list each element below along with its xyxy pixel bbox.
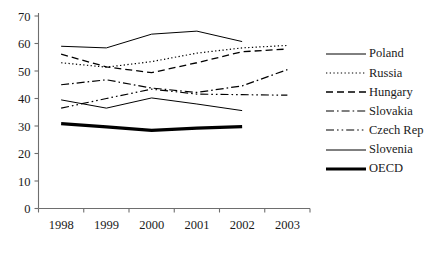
y-tick-label: 50 [18,65,31,79]
y-tick-group: 010203040506070 [18,10,39,217]
y-tick-label: 40 [18,92,31,106]
y-tick-label: 30 [18,120,31,134]
series-line-oecd [61,124,242,131]
x-tick-label: 2003 [275,218,300,232]
legend-label-russia: Russia [366,67,402,80]
y-tick-label: 10 [18,175,31,189]
series-line-hungary [61,49,287,73]
legend-item-czech-rep[interactable]: Czech Rep [326,121,423,140]
series-line-czech-rep [61,89,287,108]
legend-swatch-poland [326,48,366,60]
legend-label-slovenia: Slovenia [366,143,413,156]
y-tick-label: 60 [18,37,31,51]
y-tick-label: 70 [18,10,31,24]
plot-area: 010203040506070 199819992000200120022003 [0,0,320,257]
legend-label-czech-rep: Czech Rep [366,124,424,137]
legend-item-hungary[interactable]: Hungary [326,82,423,101]
chart-legend: Poland Russia Hungary Slovakia Czech Rep… [326,44,423,178]
legend-item-slovakia[interactable]: Slovakia [326,102,423,121]
legend-swatch-czech-rep [326,124,366,136]
legend-swatch-slovenia [326,144,366,156]
legend-swatch-slovakia [326,105,366,117]
series-line-slovakia [61,70,287,93]
legend-item-oecd[interactable]: OECD [326,159,423,178]
x-tick-label: 2001 [184,218,209,232]
legend-label-hungary: Hungary [366,86,413,99]
y-tick-label: 0 [24,202,30,216]
chart-svg: 010203040506070 199819992000200120022003 [0,0,320,257]
x-tick-label: 2002 [230,218,255,232]
legend-item-slovenia[interactable]: Slovenia [326,140,423,159]
x-tick-group: 199819992000200120022003 [39,209,311,232]
series-line-poland [61,31,242,48]
legend-item-russia[interactable]: Russia [326,63,423,82]
series-line-slovenia [61,98,242,111]
legend-label-oecd: OECD [366,162,403,175]
legend-item-poland[interactable]: Poland [326,44,423,63]
legend-swatch-oecd [326,163,366,175]
legend-swatch-hungary [326,86,366,98]
y-tick-label: 20 [18,147,31,161]
series-group [61,31,287,130]
legend-swatch-russia [326,67,366,79]
x-tick-label: 1999 [94,218,119,232]
legend-label-poland: Poland [366,47,404,60]
x-tick-label: 2000 [139,218,164,232]
x-tick-label: 1998 [49,218,74,232]
x-axis: 199819992000200120022003 [39,209,311,232]
legend-label-slovakia: Slovakia [366,105,413,118]
y-axis: 010203040506070 [18,10,39,217]
